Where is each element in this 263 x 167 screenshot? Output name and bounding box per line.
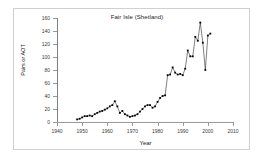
y-tick-label: 20 <box>28 106 50 112</box>
data-point <box>142 108 144 110</box>
y-tick-label: 160 <box>28 15 50 21</box>
data-point <box>174 72 176 74</box>
x-tick <box>183 122 184 126</box>
y-tick-label: 140 <box>28 28 50 34</box>
data-point <box>94 113 96 115</box>
data-point <box>81 117 83 119</box>
data-point <box>104 109 106 111</box>
data-point <box>119 112 121 114</box>
y-tick-label: 100 <box>28 54 50 60</box>
data-point <box>147 104 149 106</box>
data-point <box>134 115 136 117</box>
data-point <box>154 106 156 108</box>
y-tick-label: 40 <box>28 93 50 99</box>
data-point <box>96 112 98 114</box>
data-point <box>132 115 134 117</box>
x-tick-label: 2000 <box>196 128 220 134</box>
data-point <box>101 110 103 112</box>
data-point <box>157 101 159 103</box>
x-tick-label: 1950 <box>70 128 94 134</box>
y-tick-label: 0 <box>28 119 50 125</box>
data-point <box>197 40 199 42</box>
data-point <box>172 67 174 69</box>
data-point <box>109 106 111 108</box>
data-point <box>152 107 154 109</box>
data-point <box>204 69 206 71</box>
data-point <box>91 115 93 117</box>
data-point <box>106 107 108 109</box>
data-point <box>209 33 211 35</box>
data-point <box>86 115 88 117</box>
data-point <box>111 104 113 106</box>
data-point <box>184 68 186 70</box>
data-point <box>187 50 189 52</box>
data-point <box>194 36 196 38</box>
data-point <box>114 100 116 102</box>
y-tick-label: 120 <box>28 41 50 47</box>
data-point <box>179 73 181 75</box>
x-tick-label: 1970 <box>120 128 144 134</box>
data-series <box>57 18 233 122</box>
data-point <box>89 115 91 117</box>
x-tick <box>107 122 108 126</box>
y-tick-label: 80 <box>28 67 50 73</box>
data-point <box>167 74 169 76</box>
data-point <box>76 119 78 121</box>
x-tick <box>57 122 58 126</box>
series-line <box>77 23 210 120</box>
data-point <box>177 74 179 76</box>
data-point <box>84 115 86 117</box>
data-point <box>137 113 139 115</box>
x-tick <box>82 122 83 126</box>
data-point <box>164 94 166 96</box>
data-point <box>199 22 201 24</box>
y-axis-title: Pairs or AOT <box>20 44 26 75</box>
plot-area <box>57 18 233 122</box>
data-point <box>139 111 141 113</box>
data-point <box>129 116 131 118</box>
data-point <box>124 113 126 115</box>
x-tick <box>208 122 209 126</box>
data-point <box>169 74 171 76</box>
data-point <box>144 106 146 108</box>
x-tick <box>132 122 133 126</box>
y-tick-label: 60 <box>28 80 50 86</box>
chart-figure: Fair Isle (Shetland) Pairs or AOT 020406… <box>0 0 263 167</box>
x-tick-label: 1940 <box>45 128 69 134</box>
data-point <box>202 42 204 44</box>
data-point <box>162 95 164 97</box>
data-point <box>189 55 191 57</box>
data-point <box>182 74 184 76</box>
data-point <box>127 115 129 117</box>
data-point <box>159 97 161 99</box>
x-tick-label: 2010 <box>221 128 245 134</box>
x-axis-title: Year <box>57 140 234 146</box>
x-tick-label: 1980 <box>146 128 170 134</box>
data-point <box>207 35 209 37</box>
x-tick-label: 1990 <box>171 128 195 134</box>
data-point <box>116 106 118 108</box>
data-point <box>192 55 194 57</box>
x-tick <box>233 122 234 126</box>
data-point <box>99 111 101 113</box>
data-point <box>149 104 151 106</box>
x-tick <box>158 122 159 126</box>
x-tick-label: 1960 <box>95 128 119 134</box>
data-point <box>79 118 81 120</box>
data-point <box>121 110 123 112</box>
